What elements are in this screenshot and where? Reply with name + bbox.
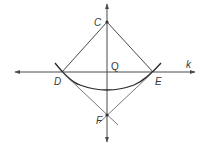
label-f: F [96,115,103,126]
label-d: D [54,76,61,87]
point-f-dot [105,113,108,116]
segment-df [62,72,118,125]
point-c-dot [105,20,108,23]
label-q: Q [111,61,119,72]
label-e: E [155,76,162,87]
geometry-diagram: C D E Q F k [0,0,205,147]
label-c: C [94,17,102,28]
segment-cd [62,22,107,72]
label-k: k [186,59,192,70]
construction-arc-de [55,63,161,90]
